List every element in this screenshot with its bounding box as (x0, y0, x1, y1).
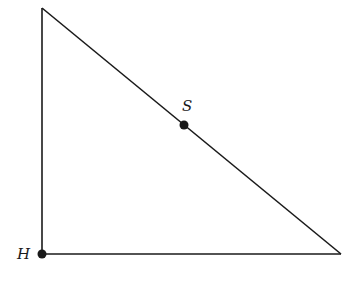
point-s (180, 121, 189, 130)
point-h (38, 250, 47, 259)
hypotenuse (42, 8, 341, 254)
label-h: H (16, 245, 31, 263)
triangle-diagram: S H (0, 0, 359, 290)
label-s: S (182, 97, 192, 115)
